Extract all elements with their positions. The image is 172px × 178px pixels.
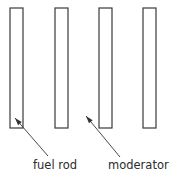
rod-1-rect bbox=[10, 8, 23, 128]
diagram-canvas: fuel rod moderator bbox=[0, 0, 172, 178]
rod-3-rect bbox=[99, 8, 112, 128]
rod-2-rect bbox=[55, 8, 68, 128]
rod-4-rect bbox=[143, 8, 156, 128]
fuel-rod-moderator-diagram: fuel rod moderator bbox=[0, 0, 172, 178]
rod-group bbox=[10, 8, 156, 128]
label-group: fuel rod moderator bbox=[33, 158, 169, 172]
fuel-rod-leader-line bbox=[15, 118, 48, 156]
fuel-rod-label: fuel rod bbox=[33, 158, 77, 172]
moderator-label: moderator bbox=[108, 158, 169, 172]
